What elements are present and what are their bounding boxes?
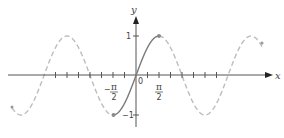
svg-text:2: 2 [112, 93, 117, 102]
y-axis-arrow-icon [133, 16, 139, 24]
x-label-half-pi: π 2 [155, 82, 163, 102]
y-label-neg1: −1 [122, 111, 134, 120]
curve-end-dot [261, 42, 264, 45]
curve-start-dot [11, 106, 14, 109]
origin-label: 0 [138, 77, 143, 86]
x-axis-label: x [275, 70, 281, 81]
svg-text:π: π [111, 82, 117, 92]
svg-text:π: π [156, 82, 162, 92]
sine-graph: y x 0 1 −1 − π 2 π 2 [0, 0, 284, 138]
svg-text:2: 2 [157, 93, 162, 102]
y-axis-label: y [130, 4, 137, 15]
x-axis-arrow-icon [265, 72, 273, 78]
point-half-pi [157, 34, 161, 38]
y-label-1: 1 [126, 32, 131, 41]
point-neg-half-pi [112, 113, 116, 117]
svg-text:−: − [104, 85, 111, 94]
x-label-neg-half-pi: − π 2 [104, 82, 118, 102]
